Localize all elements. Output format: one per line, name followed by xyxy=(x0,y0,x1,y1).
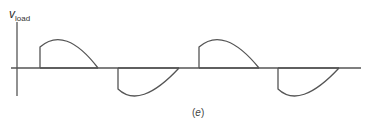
caption-close: ) xyxy=(201,107,204,118)
positive-lobe-1 xyxy=(40,40,98,68)
figure-caption: (e) xyxy=(192,107,204,118)
negative-lobe-1 xyxy=(118,68,179,96)
positive-lobe-2 xyxy=(199,40,259,68)
waveform-diagram xyxy=(0,0,372,131)
negative-lobe-2 xyxy=(278,68,339,96)
